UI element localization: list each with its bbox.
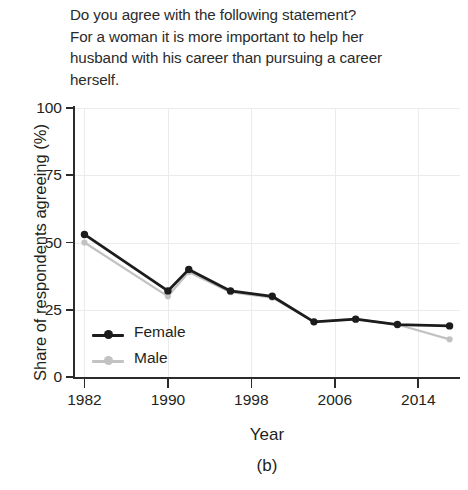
data-point-male xyxy=(81,239,87,245)
series-layer xyxy=(0,0,468,490)
data-point-female xyxy=(446,322,453,329)
y-axis-label: Share of respondents agreeing (%) xyxy=(31,103,50,403)
chart-legend: Female Male xyxy=(92,322,232,374)
legend-marker-female xyxy=(104,330,113,339)
data-point-female xyxy=(310,318,317,325)
legend-item-male: Male xyxy=(92,348,232,374)
plot-wrapper: 0255075100 19821990199820062014 Share of… xyxy=(0,0,468,490)
panel-caption: (b) xyxy=(74,456,460,476)
legend-marker-male xyxy=(104,356,113,365)
data-point-female xyxy=(164,287,171,294)
chart-figure: Do you agree with the following statemen… xyxy=(0,0,468,490)
data-point-female xyxy=(394,321,401,328)
data-point-female xyxy=(185,266,192,273)
legend-label-male: Male xyxy=(134,349,168,367)
data-point-female xyxy=(227,287,234,294)
data-point-female xyxy=(81,231,88,238)
data-point-female xyxy=(352,315,359,322)
series-line-female xyxy=(84,234,449,325)
legend-item-female: Female xyxy=(92,322,232,348)
data-point-male xyxy=(446,336,452,342)
data-point-female xyxy=(269,293,276,300)
x-axis-label: Year xyxy=(74,425,460,445)
legend-label-female: Female xyxy=(134,323,186,341)
